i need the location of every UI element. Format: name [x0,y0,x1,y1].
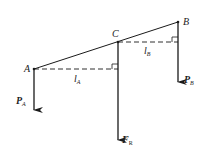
diagram-svg: A B C lA lB PA PB FR [0,0,204,156]
point-c-label: C [112,28,119,39]
lever-line-ab [34,22,178,69]
force-fr-label: FR [121,134,133,146]
distance-la-label: lA [74,73,81,85]
point-b-dot [177,21,180,24]
point-a-label: A [23,63,31,74]
lever-force-diagram: A B C lA lB PA PB FR [0,0,204,156]
point-b-label: B [183,16,189,27]
right-angle-marker-c [112,64,118,69]
force-pa-label: PA [16,95,26,107]
distance-lb-label: lB [144,45,151,57]
force-pb-label: PB [184,74,194,86]
point-c-dot [117,41,120,44]
point-a-dot [33,68,36,71]
right-angle-marker-b [172,37,178,42]
